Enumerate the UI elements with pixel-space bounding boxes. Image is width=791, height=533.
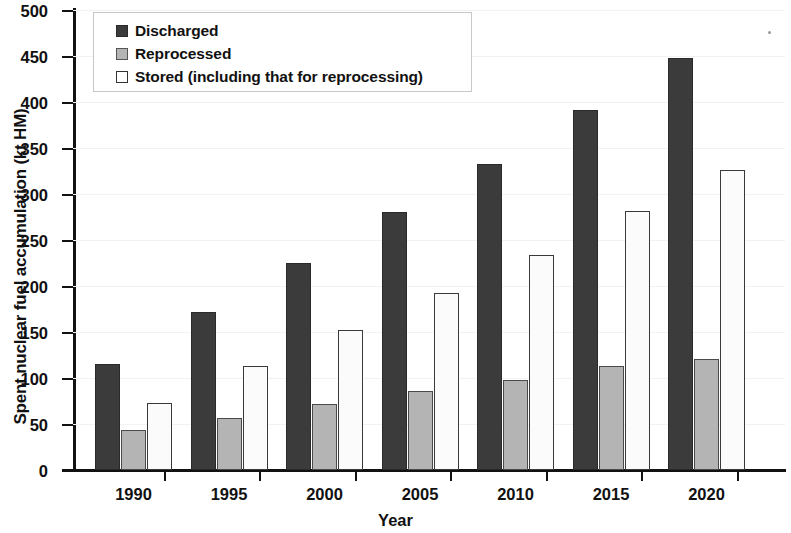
x-axis-title: Year [0, 511, 791, 530]
y-tick-label: 400 [20, 94, 48, 113]
bar-reprocessed [599, 366, 624, 470]
y-tick-label: 200 [20, 278, 48, 297]
bar-discharged [477, 164, 502, 470]
y-axis-title: Spent nuclear fuel accumulation (kt HM) [28, 0, 58, 533]
x-tick-mark [164, 472, 166, 481]
y-tick-mark: 300 [62, 194, 73, 196]
legend-label: Reprocessed [135, 45, 231, 63]
y-tick-mark: 350 [62, 148, 73, 150]
y-tick-label: 0 [39, 462, 48, 481]
y-tick-mark: 200 [62, 286, 73, 288]
bar-stored [720, 170, 745, 470]
y-tick-label: 450 [20, 48, 48, 67]
legend-label: Discharged [135, 22, 218, 40]
y-tick-label: 250 [20, 232, 48, 251]
x-tick-label: 1990 [115, 485, 152, 504]
legend-swatch-reprocessed [116, 48, 128, 60]
bar-group [477, 10, 554, 470]
bar-discharged [573, 110, 598, 470]
x-tick-label: 2000 [306, 485, 343, 504]
y-tick-mark: 450 [62, 56, 73, 58]
scan-artifact-speck [768, 31, 771, 34]
bar-reprocessed [121, 430, 146, 470]
bar-discharged [382, 212, 407, 470]
bar-stored [338, 330, 363, 470]
x-tick-mark [259, 472, 261, 481]
x-tick-mark [355, 472, 357, 481]
legend-item: Reprocessed [116, 43, 471, 65]
x-tick-label: 2020 [688, 485, 725, 504]
y-tick-label: 500 [20, 2, 48, 21]
x-tick-label: 2005 [402, 485, 439, 504]
bar-discharged [286, 263, 311, 470]
bar-stored [529, 255, 554, 470]
bar-stored [434, 293, 459, 470]
bar-group [573, 10, 650, 470]
x-tick-label: 1995 [211, 485, 248, 504]
y-tick-label: 50 [30, 416, 48, 435]
y-tick-mark: 100 [62, 378, 73, 380]
bar-reprocessed [694, 359, 719, 470]
spent-fuel-bar-chart: Spent nuclear fuel accumulation (kt HM) … [0, 0, 791, 533]
x-tick-mark [450, 472, 452, 481]
x-tick-label: 2015 [593, 485, 630, 504]
y-tick-mark: 0 [62, 470, 73, 472]
y-tick-label: 150 [20, 324, 48, 343]
bar-stored [147, 403, 172, 470]
bar-stored [243, 366, 268, 470]
chart-legend: DischargedReprocessedStored (including t… [93, 12, 472, 92]
legend-item: Discharged [116, 20, 471, 42]
bar-reprocessed [312, 404, 337, 470]
x-tick-mark [546, 472, 548, 481]
legend-swatch-discharged [116, 25, 128, 37]
legend-swatch-stored [116, 71, 128, 83]
bar-discharged [95, 364, 120, 470]
y-tick-mark: 500 [62, 10, 73, 12]
y-tick-mark: 400 [62, 102, 73, 104]
bar-group [668, 10, 745, 470]
y-tick-mark: 150 [62, 332, 73, 334]
y-tick-label: 350 [20, 140, 48, 159]
bar-reprocessed [217, 418, 242, 470]
x-tick-mark [737, 472, 739, 481]
y-tick-label: 100 [20, 370, 48, 389]
bar-reprocessed [408, 391, 433, 470]
y-tick-label: 300 [20, 186, 48, 205]
legend-label: Stored (including that for reprocessing) [135, 68, 423, 86]
bar-discharged [668, 58, 693, 470]
y-tick-mark: 250 [62, 240, 73, 242]
x-tick-label: 2010 [497, 485, 534, 504]
bar-reprocessed [503, 380, 528, 470]
bar-discharged [191, 312, 216, 470]
bar-stored [625, 211, 650, 470]
legend-item: Stored (including that for reprocessing) [116, 66, 471, 88]
y-tick-mark: 50 [62, 424, 73, 426]
x-tick-mark [641, 472, 643, 481]
